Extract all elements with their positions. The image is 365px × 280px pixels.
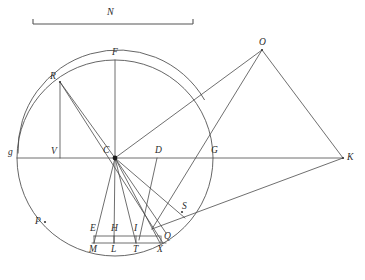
point-label-K: K — [347, 153, 353, 163]
vertex-dot-group — [44, 49, 344, 223]
geometry-figure: NOFRVCDGgKPSEHIQMLTX — [0, 0, 365, 280]
seg-D-T — [139, 158, 157, 240]
center-hub-dot — [113, 156, 118, 161]
point-label-T: T — [133, 245, 138, 255]
point-label-N: N — [107, 7, 114, 17]
point-label-H: H — [111, 224, 118, 234]
segment-group — [17, 50, 343, 243]
quad-left-O — [152, 50, 262, 229]
point-label-g: g — [8, 148, 13, 158]
vertex-dot-k — [342, 157, 344, 159]
scale-bar-group — [33, 19, 193, 24]
point-label-X: X — [157, 245, 163, 255]
ray-C-X — [115, 158, 160, 243]
quad-K-S — [152, 158, 343, 229]
point-label-F: F — [112, 48, 118, 58]
point-label-I: I — [134, 224, 137, 234]
point-label-C: C — [103, 146, 109, 156]
vertex-dot-p — [44, 221, 46, 223]
ray-C-T — [115, 158, 136, 243]
point-label-D: D — [155, 146, 162, 156]
point-label-G: G — [211, 146, 218, 156]
point-label-L: L — [111, 245, 116, 255]
ray-C-S-O — [115, 50, 262, 158]
point-label-P: P — [35, 217, 41, 227]
secondary-arc — [18, 50, 205, 153]
point-label-M: M — [89, 245, 97, 255]
quad-O-K — [262, 50, 343, 158]
point-label-Q: Q — [164, 232, 171, 242]
vertex-dot-o — [261, 49, 263, 51]
point-label-S: S — [182, 202, 187, 212]
point-label-O: O — [259, 38, 266, 48]
point-label-R: R — [50, 72, 56, 82]
point-label-V: V — [51, 147, 57, 157]
vertex-dot-r — [59, 81, 61, 83]
point-label-E: E — [90, 224, 96, 234]
figure-canvas — [0, 0, 365, 280]
